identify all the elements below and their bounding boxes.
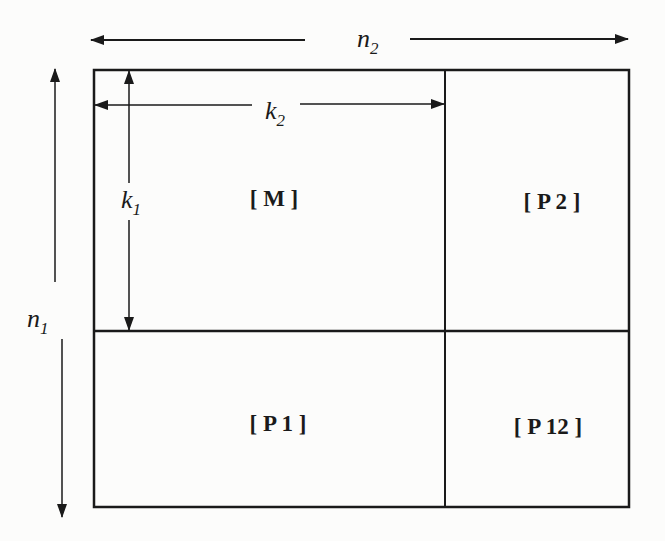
matrix-box [94,70,629,507]
n2-label: n2 [357,24,379,58]
block-m-label: [ M ] [250,186,299,211]
n2-dimension-arrow: n2 [91,24,628,58]
n1-dimension-arrow: n1 [27,69,62,517]
k1-label: k1 [121,185,141,219]
k2-label: k2 [265,96,286,130]
matrix-partition-diagram: n2 k2 n1 k1 [ M ] [ P 2 ] [ P 1 ] [ P 12… [0,0,665,541]
block-p2-label: [ P 2 ] [524,189,581,214]
k2-dimension-arrow: k2 [95,96,444,130]
k1-dimension-arrow: k1 [121,71,141,330]
n1-label: n1 [27,304,49,338]
block-p1-label: [ P 1 ] [250,411,307,436]
block-p12-label: [ P 12 ] [514,414,582,439]
